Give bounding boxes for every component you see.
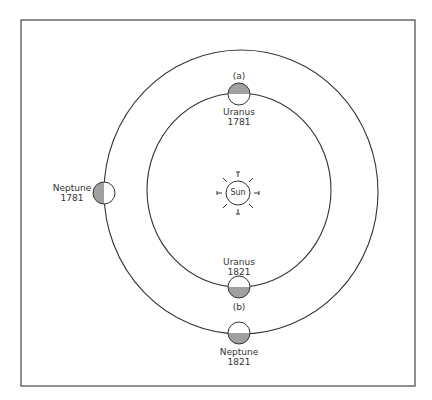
uranus-1781-name-label: Uranus [223,107,255,117]
neptune-1781-name-label: Neptune [53,183,91,193]
neptune-1781-year-label: 1781 [61,193,84,203]
marker-a-label: (a) [233,71,246,81]
marker-b-label: (b) [233,302,246,312]
uranus-1821-planet-icon [228,276,250,298]
neptune-1821-year-label: 1821 [228,357,251,367]
uranus-1821-year-label: 1821 [228,267,251,277]
uranus-1821-name-label: Uranus [223,257,255,267]
neptune-1821-name-label: Neptune [220,347,258,357]
frame-border [21,20,415,386]
neptune-1821-planet-icon [228,322,250,344]
uranus-1781-year-label: 1781 [228,117,251,127]
uranus-1781-planet-icon [228,83,250,105]
sun-label: Sun [230,188,245,198]
neptune-1781-planet-icon [93,182,115,204]
